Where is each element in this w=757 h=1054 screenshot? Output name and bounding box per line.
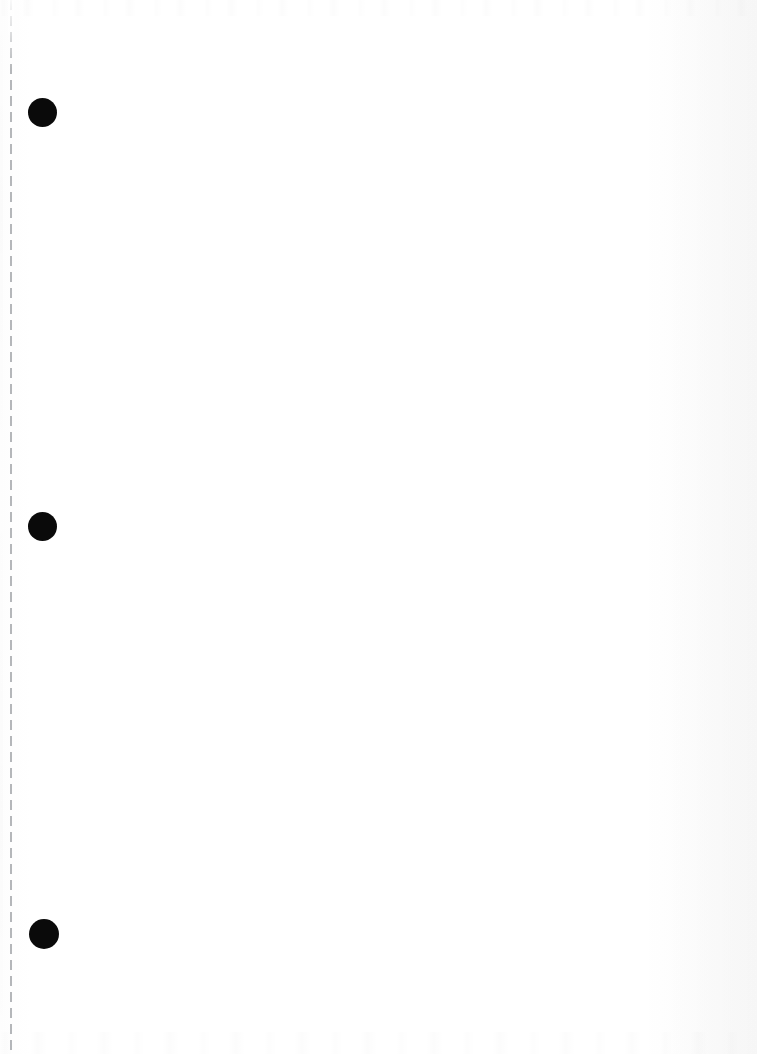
hole-marker-1 <box>28 98 57 127</box>
hole-marker-3 <box>29 919 59 949</box>
vertical-dashed-margin-line <box>10 0 12 1054</box>
paper-background <box>0 0 757 1054</box>
scanned-page <box>0 0 757 1054</box>
margin-line-top-fade <box>8 0 14 70</box>
margin-line-dashes <box>10 0 12 1054</box>
hole-marker-2 <box>28 512 57 541</box>
